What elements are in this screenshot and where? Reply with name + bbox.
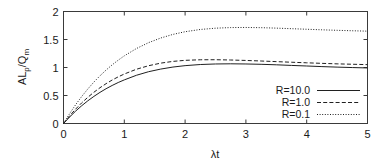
legend-label-1: R=10.0 <box>276 84 310 96</box>
x-tick-label: 3 <box>243 128 249 140</box>
y-axis-title: ALp/Qm <box>16 49 31 86</box>
legend-label-3: R=0.1 <box>282 108 310 120</box>
y-tick-labels-group: 00.511.52 <box>43 6 58 130</box>
y-tick-label: 0 <box>52 118 58 130</box>
y-tick-label: 2 <box>52 6 58 18</box>
x-tick-labels-group: 012345 <box>60 128 370 140</box>
y-axis-title-main: AL <box>16 72 28 85</box>
y-tick-label: 0.5 <box>43 90 58 102</box>
x-axis-title: λt <box>211 148 220 160</box>
x-tick-label: 4 <box>304 128 310 140</box>
chart-figure: 012345 00.511.52 λt ALp/Qm R=10.0R=1.0R=… <box>0 0 389 165</box>
x-tick-label: 5 <box>364 128 370 140</box>
line-chart: 012345 00.511.52 λt ALp/Qm R=10.0R=1.0R=… <box>0 0 389 165</box>
y-axis-title-sub-m: m <box>22 49 31 56</box>
x-tick-label: 0 <box>60 128 66 140</box>
y-tick-label: 1.5 <box>43 34 58 46</box>
x-tick-label: 2 <box>182 128 188 140</box>
x-tick-label: 1 <box>121 128 127 140</box>
y-tick-label: 1 <box>52 62 58 74</box>
legend-label-2: R=1.0 <box>282 96 310 108</box>
y-axis-title-mid: /Q <box>16 55 28 67</box>
svg-text:ALp/Qm: ALp/Qm <box>16 49 31 86</box>
